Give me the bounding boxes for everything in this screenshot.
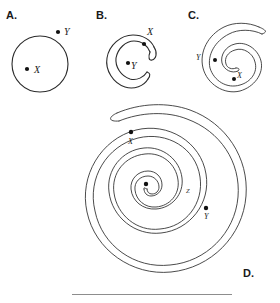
panel-b-point-x-label: X bbox=[147, 27, 153, 37]
panel-b-tail-cap bbox=[149, 47, 156, 60]
panel-d-inner-edge bbox=[93, 114, 238, 266]
panel-d-point-z-dot bbox=[144, 182, 148, 186]
panel-d-point-y-dot bbox=[204, 206, 208, 210]
panel-a-point-y-label: Y bbox=[64, 27, 70, 37]
panel-a-point-y-dot bbox=[56, 30, 60, 34]
panel-b-point-x-dot bbox=[142, 42, 146, 46]
panel-d-outer-edge bbox=[85, 105, 246, 273]
panel-d-core-cap bbox=[144, 188, 147, 189]
panel-d-outer-tail-cap bbox=[110, 113, 119, 121]
panel-label-a: A. bbox=[6, 10, 17, 21]
panel-b-point-y-label: Y bbox=[131, 61, 137, 71]
bottom-divider bbox=[72, 294, 232, 295]
panel-b-point-y-dot bbox=[126, 61, 130, 65]
panel-d-point-y-label: Y bbox=[204, 213, 208, 221]
panel-a-circle bbox=[12, 36, 68, 92]
panel-a-point-x-label: X bbox=[34, 65, 40, 75]
panel-d-point-x-dot bbox=[129, 130, 133, 134]
figure-root: A. X Y B. X Y C. Y X bbox=[0, 0, 280, 303]
panel-c-point-y-label: Y bbox=[196, 54, 200, 62]
panel-c-point-x-dot bbox=[232, 77, 236, 81]
panel-label-d: D. bbox=[243, 268, 254, 279]
panel-d-point-x-label: X bbox=[128, 138, 133, 146]
panel-b-figure bbox=[92, 20, 187, 100]
panel-c-outer-edge bbox=[202, 23, 261, 92]
panel-c-point-x-label: X bbox=[237, 72, 242, 80]
panel-a-figure bbox=[0, 22, 95, 97]
panel-d-point-z-label: Z bbox=[186, 188, 190, 195]
panel-a-point-x-dot bbox=[25, 67, 29, 71]
panel-c-inner-edge bbox=[209, 30, 262, 86]
panel-b-bottom-cap bbox=[147, 72, 150, 79]
panel-c-point-y-dot bbox=[213, 58, 217, 62]
